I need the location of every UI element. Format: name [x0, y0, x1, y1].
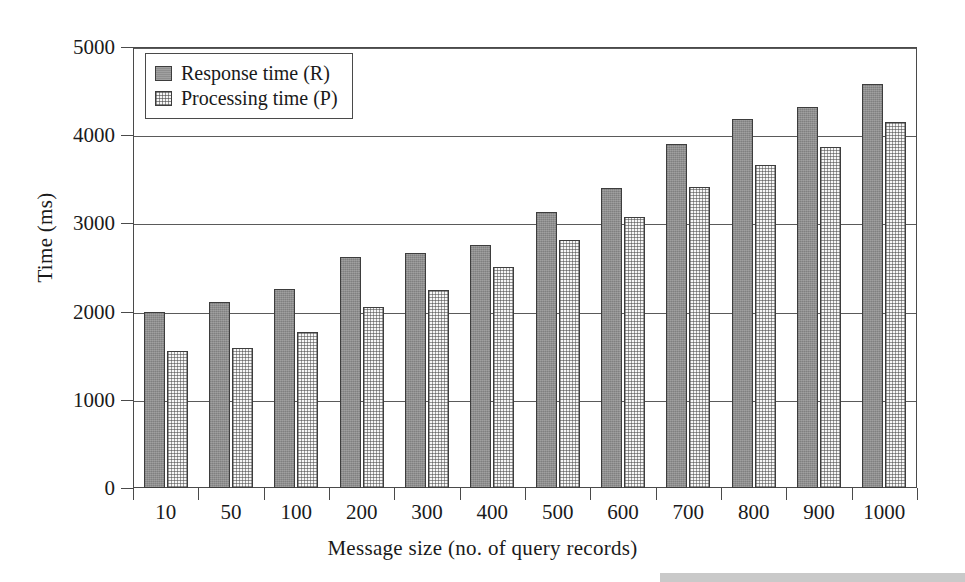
legend-label: Processing time (P) [181, 87, 338, 110]
bar-response [666, 144, 687, 488]
x-tick-mark [721, 488, 722, 500]
bar-processing [820, 147, 841, 488]
x-tick-mark [460, 488, 461, 500]
x-tick-mark [329, 488, 330, 500]
bar-processing [167, 351, 188, 488]
bar-response [405, 253, 426, 488]
bar-group [525, 47, 590, 488]
y-tick-label: 5000 [0, 35, 115, 60]
legend-label: Response time (R) [181, 62, 330, 85]
bar-processing [885, 122, 906, 488]
bar-response [601, 188, 622, 488]
bar-group [590, 47, 655, 488]
x-tick-mark [917, 488, 918, 500]
bar-processing [428, 290, 449, 488]
x-tick-mark [786, 488, 787, 500]
x-tick-mark [852, 488, 853, 500]
bar-processing [689, 187, 710, 488]
bar-response [209, 302, 230, 488]
bar-group [656, 47, 721, 488]
bar-response [340, 257, 361, 488]
bar-processing [297, 332, 318, 488]
bar-processing [232, 348, 253, 488]
y-tick-label: 1000 [0, 387, 115, 412]
legend-swatch-response [155, 66, 172, 81]
bar-processing [493, 267, 514, 488]
y-tick-label: 0 [0, 476, 115, 501]
x-tick-mark [264, 488, 265, 500]
bar-response [144, 312, 165, 488]
bar-processing [624, 217, 645, 488]
x-tick-mark [525, 488, 526, 500]
bar-processing [755, 165, 776, 488]
x-tick-mark [590, 488, 591, 500]
x-tick-mark [133, 488, 134, 500]
y-tick-label: 4000 [0, 123, 115, 148]
bar-response [797, 107, 818, 488]
bar-response [470, 245, 491, 488]
bar-response [536, 212, 557, 488]
bar-processing [559, 240, 580, 488]
bar-processing [363, 307, 384, 488]
bar-chart-figure: Time (ms) 010002000300040005000 10501002… [0, 0, 965, 582]
bar-response [732, 119, 753, 488]
y-tick-label: 2000 [0, 299, 115, 324]
bar-group [721, 47, 786, 488]
y-tick-label: 3000 [0, 211, 115, 236]
x-tick-mark [394, 488, 395, 500]
bar-group [460, 47, 525, 488]
chart-legend: Response time (R)Processing time (P) [145, 53, 353, 119]
bar-group [394, 47, 459, 488]
bar-group [786, 47, 851, 488]
legend-item-response: Response time (R) [155, 61, 338, 86]
legend-swatch-processing [155, 91, 172, 106]
bar-response [862, 84, 883, 488]
x-tick-label: 1000 [839, 500, 929, 525]
bar-response [274, 289, 295, 488]
x-axis-title: Message size (no. of query records) [0, 536, 965, 561]
legend-item-processing: Processing time (P) [155, 86, 338, 111]
bar-group [852, 47, 917, 488]
x-tick-mark [656, 488, 657, 500]
scan-artifact [660, 573, 965, 582]
x-tick-mark [198, 488, 199, 500]
